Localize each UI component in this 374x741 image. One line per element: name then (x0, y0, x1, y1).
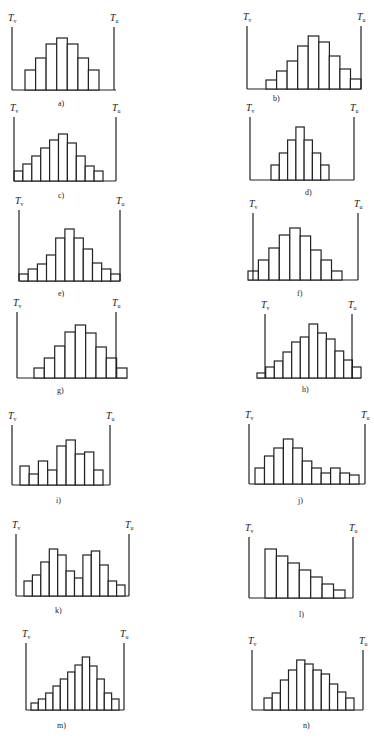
upper-limit-subscript: u (118, 108, 121, 114)
histogram-bar (14, 171, 23, 181)
histogram-bar (83, 555, 91, 596)
histogram-bar (65, 332, 75, 378)
panel-label: a) (58, 99, 65, 108)
histogram-panel: TvTue) (15, 195, 125, 298)
histogram-panel: TvTua) (8, 12, 119, 108)
histogram-bar (340, 473, 350, 484)
histogram-bar (31, 703, 38, 710)
histogram-bar (85, 166, 94, 181)
histogram-bar (258, 260, 268, 280)
histogram-bar (265, 549, 276, 598)
histogram-bar (311, 577, 322, 598)
histogram-bar (318, 333, 327, 378)
upper-limit-subscript: u (112, 416, 115, 422)
histogram-bar (41, 562, 49, 596)
histogram-bar (32, 156, 41, 181)
histogram-bar (305, 664, 313, 710)
histogram-bar (34, 368, 44, 378)
histogram-bar (29, 474, 38, 485)
histogram-bar (300, 236, 310, 280)
upper-limit-label: Tu (125, 519, 134, 531)
histogram-bar (46, 693, 53, 710)
panel-label: j) (297, 496, 303, 505)
histogram-bar (76, 156, 85, 181)
histogram-bar (312, 153, 320, 180)
histogram-bar (292, 342, 301, 378)
histogram-bar (32, 575, 40, 596)
histogram-bar (340, 69, 351, 89)
histogram-bar (55, 346, 65, 378)
upper-limit-subscript: u (131, 525, 134, 531)
upper-limit-label: Tu (357, 11, 366, 23)
histogram-bar (313, 670, 321, 710)
histogram-panel: TvTuj) (245, 409, 370, 505)
histogram-bar (67, 44, 78, 90)
histogram-bar (57, 446, 66, 485)
histogram-bar (283, 352, 292, 378)
histogram-bar (58, 555, 66, 596)
lower-limit-label: Tv (261, 299, 270, 311)
panel-label: i) (56, 496, 61, 505)
histogram-bar (49, 549, 57, 596)
histogram-bar (321, 674, 329, 710)
histogram-bar (279, 235, 289, 280)
histogram-bar (255, 468, 265, 484)
histogram-bar (100, 565, 108, 596)
histogram-bar (20, 466, 29, 485)
upper-limit-label: Tu (348, 299, 357, 311)
histogram-bar (83, 249, 92, 281)
histogram-bar (75, 325, 85, 378)
panel-label: b) (273, 94, 280, 103)
histogram-bar (86, 333, 96, 378)
histogram-bar (322, 584, 333, 598)
histogram-panel: TvTuh) (257, 299, 361, 394)
histogram-bar (88, 70, 99, 90)
upper-limit-subscript: u (354, 305, 357, 311)
panel-label: k) (55, 606, 62, 615)
lower-limit-label: Tv (245, 409, 254, 421)
upper-limit-subscript: u (355, 528, 358, 534)
histogram-bar (102, 269, 111, 281)
lower-limit-subscript: v (28, 634, 31, 640)
upper-limit-subscript: u (363, 17, 366, 23)
histogram-bar (47, 255, 56, 281)
histogram-bar (283, 439, 293, 484)
histogram-bar (302, 461, 312, 484)
histogram-bar (75, 454, 84, 485)
upper-limit-label: Tu (359, 635, 368, 647)
histogram-panel: TvTum) (22, 628, 129, 730)
histogram-bar (265, 456, 275, 484)
histogram-bar (329, 56, 340, 89)
histogram-bar (111, 274, 120, 281)
lower-limit-label: Tv (8, 12, 17, 24)
lower-limit-subscript: v (18, 525, 21, 531)
histogram-bar (78, 58, 89, 90)
histogram-bar (319, 42, 330, 89)
histogram-panel: TvTuf) (248, 198, 363, 298)
histogram-bar (117, 585, 125, 596)
histogram-bar (104, 693, 111, 710)
histogram-bar (57, 38, 68, 90)
lower-limit-subscript: v (21, 201, 24, 207)
histogram-bar (299, 570, 310, 598)
lower-limit-label: Tv (246, 102, 255, 114)
histogram-bar (94, 171, 103, 181)
lower-limit-label: Tv (10, 102, 19, 114)
histogram-bar (293, 448, 303, 484)
histogram-bar (90, 666, 97, 710)
panel-label: m) (57, 721, 66, 730)
histogram-bar (50, 140, 59, 181)
histogram-bar (93, 263, 102, 281)
upper-limit-label: Tu (120, 628, 129, 640)
histogram-bar (96, 347, 106, 378)
histogram-panel: TvTun) (248, 635, 368, 730)
histogram-bar (23, 164, 32, 181)
upper-limit-subscript: u (126, 634, 129, 640)
histogram-bar (257, 373, 266, 378)
lower-limit-label: Tv (8, 410, 17, 422)
histogram-bar (272, 693, 280, 710)
upper-limit-subscript: u (118, 303, 121, 309)
upper-limit-label: Tu (106, 410, 115, 422)
histogram-bar (264, 698, 272, 710)
histogram-panel: TvTui) (8, 410, 115, 505)
